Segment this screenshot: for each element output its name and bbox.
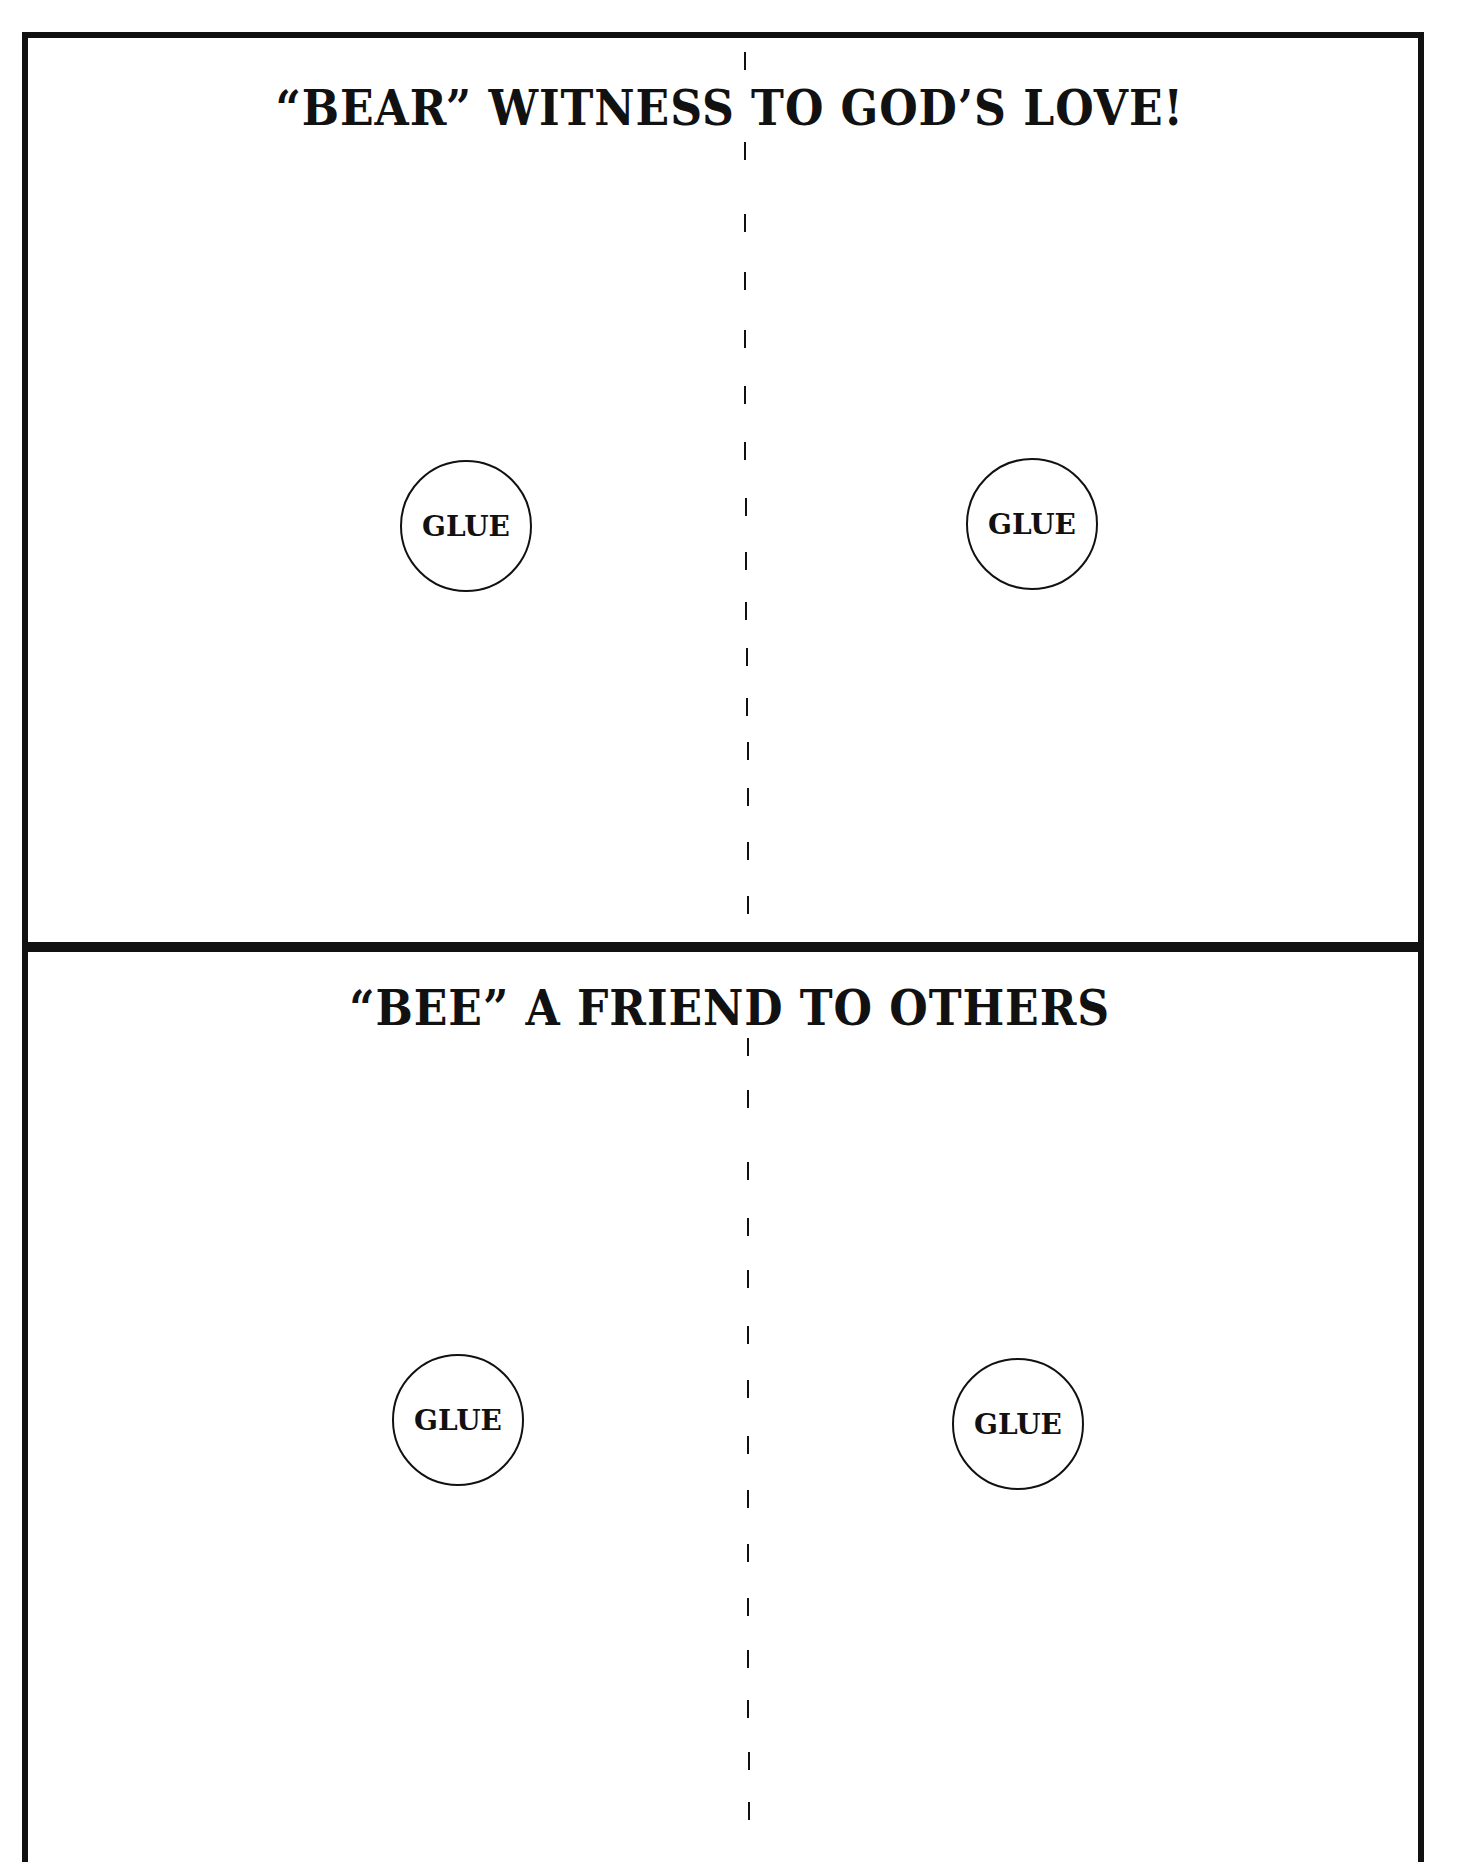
fold-dash xyxy=(747,1436,749,1454)
fold-dash xyxy=(747,896,749,914)
fold-dash xyxy=(748,1802,750,1820)
fold-dash xyxy=(747,1038,749,1056)
fold-dash xyxy=(747,1700,749,1718)
fold-dash xyxy=(747,842,749,860)
fold-dash xyxy=(748,1752,750,1770)
fold-dash xyxy=(744,272,746,290)
fold-dash xyxy=(744,52,746,70)
glue-label: GLUE xyxy=(422,510,510,543)
fold-dash xyxy=(744,142,746,160)
panel-title: “BEE” A FRIEND TO OTHERS xyxy=(59,984,1399,1032)
fold-dash xyxy=(747,1490,749,1508)
fold-dash xyxy=(745,498,747,516)
fold-dash xyxy=(745,552,747,570)
glue-spot: GLUE xyxy=(966,458,1098,590)
fold-dash xyxy=(747,1544,749,1562)
glue-spot: GLUE xyxy=(952,1358,1084,1490)
glue-spot: GLUE xyxy=(392,1354,524,1486)
glue-spot: GLUE xyxy=(400,460,532,592)
fold-dash xyxy=(744,214,746,232)
fold-dash xyxy=(747,1380,749,1398)
fold-dash xyxy=(745,602,747,620)
glue-label: GLUE xyxy=(974,1408,1062,1441)
fold-dash xyxy=(747,1218,749,1236)
panel-title: “BEAR” WITNESS TO GOD’S LOVE! xyxy=(59,84,1399,132)
fold-dash xyxy=(744,442,746,460)
fold-dash xyxy=(744,386,746,404)
glue-label: GLUE xyxy=(988,508,1076,541)
fold-dash xyxy=(747,1650,749,1668)
fold-dash xyxy=(746,648,748,666)
fold-dash xyxy=(747,1598,749,1616)
fold-dash xyxy=(747,1326,749,1344)
fold-dash xyxy=(747,1270,749,1288)
fold-dash xyxy=(744,330,746,348)
fold-dash xyxy=(747,1162,749,1180)
glue-label: GLUE xyxy=(414,1404,502,1437)
fold-dash xyxy=(747,1090,749,1108)
fold-dash xyxy=(747,742,749,760)
fold-dash xyxy=(747,788,749,806)
panel-divider xyxy=(22,942,1424,952)
fold-dash xyxy=(746,698,748,716)
